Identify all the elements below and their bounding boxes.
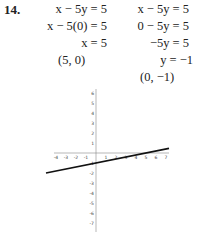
x-tick-label: -2 (74, 155, 79, 160)
y-tick-label: -5 (90, 201, 95, 206)
x-tick-label: -3 (64, 155, 69, 160)
y-tick-label: -2 (90, 171, 95, 176)
y-tick-label: -4 (90, 191, 95, 196)
y-tick-labels: 654321-1-2-3-4-5-6-7 (90, 91, 95, 226)
x-tick-labels: -4-3-2-11234567 (54, 155, 168, 160)
y-tick-label: -3 (90, 181, 95, 186)
y-tick-label: -7 (90, 221, 95, 226)
y-tick-label: 1 (91, 141, 94, 146)
x-tick-label: -4 (54, 155, 59, 160)
y-tick-label: 3 (91, 121, 94, 126)
x-tick-label: -1 (84, 155, 89, 160)
graph: -4-3-2-11234567 654321-1-2-3-4-5-6-7 (0, 0, 207, 247)
y-tick-label: 6 (91, 91, 94, 96)
x-tick-label: 6 (155, 155, 158, 160)
graph-line (46, 148, 169, 173)
y-tick-label: 4 (91, 111, 94, 116)
y-tick-label: 5 (91, 101, 94, 106)
y-tick-label: -6 (90, 211, 95, 216)
x-tick-label: 5 (145, 155, 148, 160)
y-tick-label: 2 (91, 131, 94, 136)
x-tick-label: 7 (165, 155, 168, 160)
x-tick-label: 1 (105, 155, 108, 160)
